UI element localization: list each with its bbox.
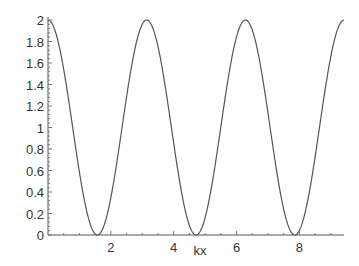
y-tick-label: 0.8 [26,142,44,157]
x-tick-label: 8 [296,240,303,255]
y-tick-label: 1.6 [26,56,44,71]
y-tick-label: 0.2 [26,207,44,222]
y-tick-label: 1.4 [26,78,44,93]
x-tick-label: 4 [170,240,177,255]
x-tick-label: 2 [107,240,114,255]
y-tick-label: 0 [37,228,44,243]
y-tick-label: 1.8 [26,35,44,50]
data-line [48,20,344,235]
y-tick-label: 2 [37,13,44,28]
x-tick-label: 6 [233,240,240,255]
y-tick-label: 0.4 [26,185,44,200]
y-tick-label: 1.2 [26,99,44,114]
x-axis-label: kx [194,243,208,258]
chart: 00.20.40.60.811.21.41.61.82 2468 kx [0,0,359,266]
y-tick-label: 1 [37,121,44,136]
y-tick-label: 0.6 [26,164,44,179]
